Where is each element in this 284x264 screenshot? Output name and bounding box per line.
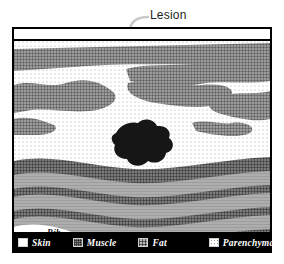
muscle-swatch-icon bbox=[73, 238, 83, 247]
legend-item-muscle: Muscle bbox=[73, 238, 117, 248]
legend-label-fat: Fat bbox=[152, 238, 166, 248]
legend-label-parenchyma: Parenchyma bbox=[223, 238, 275, 248]
fat-lobule-left bbox=[14, 80, 116, 113]
figure-canvas: Lesion bbox=[0, 0, 284, 264]
fat-swatch-icon bbox=[138, 238, 148, 247]
tissue-cross-section bbox=[14, 41, 270, 253]
legend: Skin Muscle Fat Parenchyma bbox=[12, 232, 272, 253]
legend-label-muscle: Muscle bbox=[87, 238, 117, 248]
skin-layer-band bbox=[14, 29, 270, 41]
legend-item-skin: Skin bbox=[18, 238, 51, 248]
lesion-callout-label: Lesion bbox=[150, 8, 187, 22]
legend-item-fat: Fat bbox=[138, 238, 166, 248]
tissue-svg bbox=[14, 41, 270, 253]
parenchyma-swatch-icon bbox=[209, 238, 219, 247]
legend-label-skin: Skin bbox=[32, 238, 51, 248]
skin-swatch-icon bbox=[18, 238, 28, 247]
legend-item-parenchyma: Parenchyma bbox=[209, 238, 275, 248]
diagram-frame: Rib bbox=[12, 27, 272, 253]
